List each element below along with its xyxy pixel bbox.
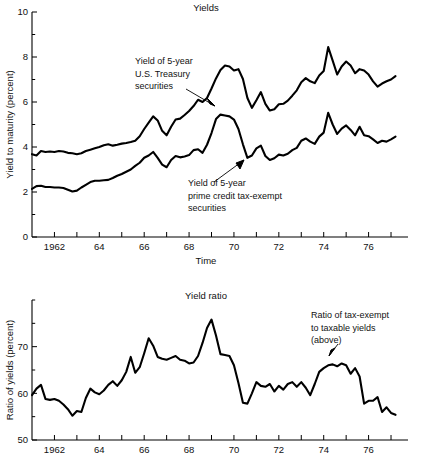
x-tick-label-yields-1968: 68 bbox=[184, 241, 195, 252]
x-tick-label-yields-1962: 1962 bbox=[44, 241, 65, 252]
x-tick-label-yield-ratio-1968: 68 bbox=[184, 444, 195, 455]
treasury-annotation-line-2: securities bbox=[135, 81, 174, 91]
x-tick-label-yields-1976: 76 bbox=[363, 241, 374, 252]
chart-title-yields: Yields bbox=[193, 2, 219, 13]
x-tick-label-yields-1966: 66 bbox=[139, 241, 150, 252]
ratio-annotation-line-1: to taxable yields bbox=[311, 323, 376, 333]
y-axis-title-yields: Yield to maturity (percent) bbox=[4, 70, 15, 178]
tax-exempt-annotation-line-1: prime credit tax-exempt bbox=[188, 191, 283, 201]
series-line-yields-0 bbox=[32, 47, 396, 155]
x-tick-label-yield-ratio-1972: 72 bbox=[274, 444, 285, 455]
chart-canvas: Yields0246810196264666870727476Yield to … bbox=[0, 0, 424, 459]
x-tick-label-yield-ratio-1970: 70 bbox=[229, 444, 240, 455]
y-tick-label-yields-6: 6 bbox=[23, 96, 28, 107]
x-tick-label-yield-ratio-1976: 76 bbox=[363, 444, 374, 455]
tax-exempt-annotation-arrowhead bbox=[236, 160, 244, 169]
y-tick-label-yield-ratio-70: 70 bbox=[17, 341, 28, 352]
y-tick-label-yields-4: 4 bbox=[23, 141, 28, 152]
treasury-annotation-line-1: U.S. Treasury bbox=[135, 69, 191, 79]
x-tick-label-yields-1972: 72 bbox=[274, 241, 285, 252]
y-tick-label-yield-ratio-50: 50 bbox=[17, 434, 28, 445]
chart-title-yield-ratio: Yield ratio bbox=[185, 290, 227, 301]
tax-exempt-annotation: Yield of 5-yearprime credit tax-exemptse… bbox=[188, 160, 283, 213]
x-tick-label-yields-1970: 70 bbox=[229, 241, 240, 252]
ratio-annotation-line-0: Ratio of tax-exempt bbox=[311, 310, 390, 320]
y-tick-label-yield-ratio-60: 60 bbox=[17, 388, 28, 399]
x-tick-label-yield-ratio-1974: 74 bbox=[318, 444, 329, 455]
figure-yields-and-yield-ratio: Yields0246810196264666870727476Yield to … bbox=[0, 0, 424, 459]
ratio-annotation-arrowhead bbox=[329, 348, 335, 356]
x-tick-label-yields-1964: 64 bbox=[94, 241, 105, 252]
y-tick-label-yields-0: 0 bbox=[23, 231, 28, 242]
panel-yields: Yields0246810196264666870727476Yield to … bbox=[4, 2, 408, 266]
x-axis-title-yields: Time bbox=[196, 255, 217, 266]
y-tick-label-yields-8: 8 bbox=[23, 51, 28, 62]
tax-exempt-annotation-line-2: securities bbox=[188, 203, 227, 213]
y-axis-title-yield-ratio: Ratio of yields (percent) bbox=[4, 320, 15, 420]
y-tick-label-yields-2: 2 bbox=[23, 186, 28, 197]
x-tick-label-yield-ratio-1966: 66 bbox=[139, 444, 150, 455]
x-tick-label-yield-ratio-1964: 64 bbox=[94, 444, 105, 455]
ratio-annotation-line-2: (above) bbox=[311, 335, 342, 345]
treasury-annotation: Yield of 5-yearU.S. Treasurysecurities bbox=[135, 56, 215, 106]
x-tick-label-yield-ratio-1962: 1962 bbox=[44, 444, 65, 455]
y-tick-label-yields-10: 10 bbox=[17, 6, 28, 17]
ratio-annotation: Ratio of tax-exemptto taxable yields(abo… bbox=[311, 310, 390, 356]
x-tick-label-yields-1974: 74 bbox=[318, 241, 329, 252]
treasury-annotation-line-0: Yield of 5-year bbox=[135, 56, 193, 66]
